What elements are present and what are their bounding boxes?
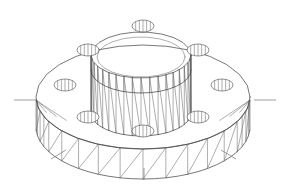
rim-diagonal-line bbox=[120, 149, 143, 178]
bolt-hole[interactable] bbox=[54, 79, 76, 91]
bolt-hole[interactable] bbox=[187, 111, 209, 123]
rim-corner-fan-right bbox=[220, 100, 250, 120]
hub-rib-diagonal bbox=[166, 75, 173, 131]
rim-diagonal-line bbox=[166, 144, 188, 178]
hub-rib-diagonal bbox=[109, 73, 116, 133]
hub-rib-diagonal bbox=[116, 75, 124, 135]
hub-rib-diagonal bbox=[103, 70, 109, 131]
centerline-marks bbox=[14, 100, 276, 180]
bolt-hole[interactable] bbox=[132, 20, 154, 32]
rim-diagonal-line bbox=[49, 131, 62, 152]
hub-rib-diagonal bbox=[179, 70, 184, 125]
rim-diagonal-line bbox=[36, 111, 40, 130]
bolt-hole[interactable] bbox=[211, 79, 233, 91]
rim-diagonal-line bbox=[224, 122, 237, 161]
rim-diagonal-line bbox=[207, 131, 224, 169]
rim-corner-fan-right bbox=[230, 100, 250, 116]
rim-diagonal-line bbox=[143, 148, 166, 179]
rim-diagonal-line bbox=[40, 122, 49, 142]
hub-rib-diagonal bbox=[158, 77, 166, 133]
hub-rib-diagonal bbox=[150, 78, 158, 135]
bolt-hole[interactable] bbox=[77, 44, 99, 56]
bolt-hole[interactable] bbox=[187, 44, 209, 56]
bolt-hole[interactable] bbox=[132, 125, 154, 137]
rim-diagonal-line bbox=[98, 148, 120, 174]
technical-drawing-canvas[interactable] bbox=[0, 0, 290, 188]
flange-rim-band bbox=[36, 100, 250, 179]
rim-diagonal-line bbox=[79, 144, 99, 168]
rim-corner-fan-left bbox=[36, 100, 56, 116]
hub-rib-diagonal bbox=[188, 63, 190, 117]
hub-rib-diagonal bbox=[124, 77, 132, 136]
bolt-hole[interactable] bbox=[77, 111, 99, 123]
centerline-lower-left bbox=[51, 150, 66, 159]
bolt-hole-set[interactable] bbox=[54, 20, 233, 137]
hub-rib-diagonal bbox=[173, 73, 179, 128]
rim-diagonal-line bbox=[62, 139, 79, 161]
rim-corner-fan-left bbox=[36, 100, 66, 120]
cad-viewport[interactable] bbox=[0, 0, 290, 188]
hub-rib-diagonal bbox=[184, 67, 188, 121]
